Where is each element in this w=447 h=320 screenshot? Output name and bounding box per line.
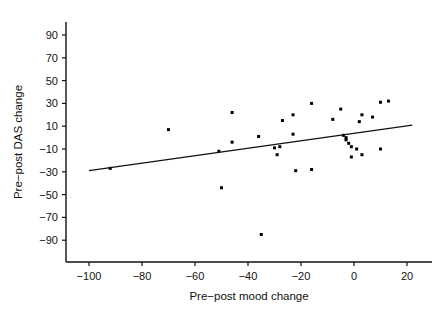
x-tick-label: −80 <box>133 270 152 282</box>
x-tick-label: −60 <box>186 270 205 282</box>
y-tick-label: 90 <box>46 29 58 41</box>
data-point <box>310 168 313 171</box>
data-point <box>379 101 382 104</box>
plot-canvas: 9070503010−10−30−50−70−90 −100−80−60−40−… <box>0 0 447 320</box>
data-point <box>387 100 390 103</box>
data-point <box>231 111 234 114</box>
data-point <box>167 128 170 131</box>
data-point <box>347 142 350 145</box>
data-point <box>231 141 234 144</box>
x-tick-label: 0 <box>351 270 357 282</box>
data-point <box>360 153 363 156</box>
x-tick-label: −20 <box>292 270 311 282</box>
data-point <box>379 148 382 151</box>
y-tick-label: −90 <box>39 234 58 246</box>
data-point <box>278 145 281 148</box>
data-point <box>310 102 313 105</box>
data-point <box>294 169 297 172</box>
scatter-plot-figure: 9070503010−10−30−50−70−90 −100−80−60−40−… <box>0 0 447 320</box>
y-tick-label: 30 <box>46 97 58 109</box>
x-axis-title: Pre−post mood change <box>189 290 308 302</box>
data-point <box>355 148 358 151</box>
data-point <box>371 116 374 119</box>
y-tick-label: −50 <box>39 189 58 201</box>
y-tick-label: 10 <box>46 120 58 132</box>
data-point <box>257 135 260 138</box>
y-tick-label: 50 <box>46 75 58 87</box>
data-point <box>260 233 263 236</box>
y-tick-label: −30 <box>39 166 58 178</box>
data-point <box>273 146 276 149</box>
data-point <box>350 145 353 148</box>
x-tick-label: 20 <box>401 270 413 282</box>
y-axis-title: Pre−post DAS change <box>12 85 24 199</box>
x-tick-label: −100 <box>77 270 102 282</box>
data-point <box>358 120 361 123</box>
y-tick-label: −10 <box>39 143 58 155</box>
data-point <box>339 108 342 111</box>
data-point <box>276 153 279 156</box>
data-point <box>281 119 284 122</box>
data-point <box>350 155 353 158</box>
data-point <box>345 138 348 141</box>
y-tick-label: 70 <box>46 52 58 64</box>
data-point <box>360 113 363 116</box>
y-tick-label: −70 <box>39 211 58 223</box>
data-point <box>292 113 295 116</box>
data-point <box>292 133 295 136</box>
data-point <box>331 118 334 121</box>
x-tick-label: −40 <box>239 270 258 282</box>
data-point <box>220 186 223 189</box>
plot-background <box>0 0 447 320</box>
